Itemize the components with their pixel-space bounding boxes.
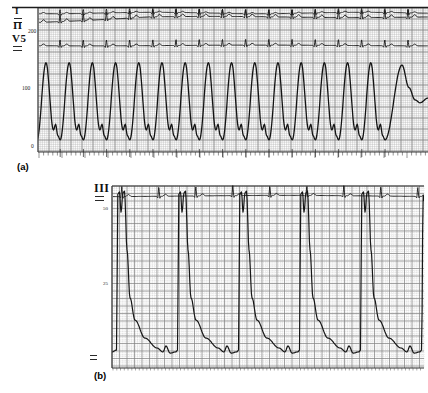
- calibration-mark: [90, 355, 97, 360]
- lead-label-I: I: [15, 7, 19, 16]
- y-tick-100: 100: [22, 86, 30, 92]
- calibration-mark: [95, 196, 104, 201]
- panel-b-grid-minor: [112, 186, 424, 368]
- panel-a-grid-minor: [38, 8, 428, 152]
- panel-label-a: (a): [17, 162, 29, 172]
- y-tick-0: 0: [31, 144, 34, 150]
- lead-label-III: III: [94, 182, 110, 194]
- panel-a-time-ticks: [39, 152, 425, 158]
- panel-a: [12, 8, 428, 159]
- y-tick-200: 200: [28, 29, 36, 35]
- ecg-pressure-figure: I II V5 200 100 0 (a) III 50 25 (b): [0, 0, 428, 393]
- lead-label-V5: V5: [12, 33, 26, 44]
- calibration-mark: [13, 46, 22, 51]
- panel-a-grid-major: [38, 8, 428, 152]
- panel-a-axis-border: [38, 8, 428, 152]
- lead-label-II: II: [13, 20, 23, 31]
- y-tick-50: 50: [103, 206, 108, 211]
- panel-label-b: (b): [94, 371, 106, 381]
- y-tick-25: 25: [103, 281, 108, 286]
- figure-canvas: [0, 0, 428, 393]
- panel-a-trough-marks: [60, 149, 385, 157]
- panel-b: [112, 186, 425, 371]
